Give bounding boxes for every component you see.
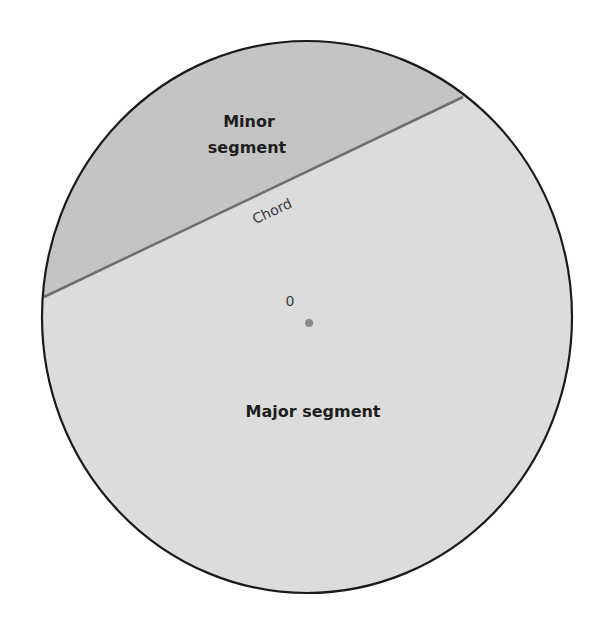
major-segment-label: Major segment — [245, 402, 380, 421]
minor-segment-label-line1: Minor — [223, 112, 275, 131]
center-point — [305, 319, 313, 327]
center-label: 0 — [286, 293, 295, 309]
circle-diagram: Minor segment Chord 0 Major segment — [0, 0, 601, 630]
minor-segment-label-line2: segment — [208, 138, 287, 157]
